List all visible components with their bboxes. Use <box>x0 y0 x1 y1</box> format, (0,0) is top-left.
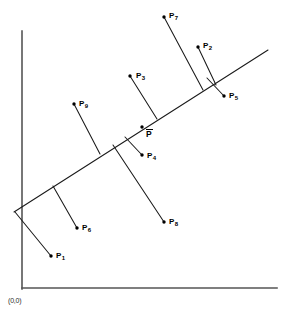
point-label-subscript: 2 <box>209 45 212 51</box>
point-label-subscript: 5 <box>235 95 238 101</box>
point-dot-p3 <box>128 74 131 77</box>
perpendicular-segment-p1 <box>15 212 51 256</box>
point-label-subscript: 7 <box>175 15 178 21</box>
point-label-subscript: 1 <box>62 255 65 261</box>
point-label-base: P <box>82 223 87 232</box>
point-label-base: P <box>169 11 174 20</box>
perpendicular-segment-p2 <box>198 47 216 85</box>
point-dot-p2 <box>196 45 199 48</box>
point-label-subscript: 6 <box>88 227 91 233</box>
point-label-p3: P3 <box>136 72 145 80</box>
point-label-p7: P7 <box>169 12 178 20</box>
point-dot-p6 <box>75 226 78 229</box>
point-label-subscript: 3 <box>142 75 145 81</box>
point-dot-p9 <box>72 102 75 105</box>
point-dot-mean <box>140 125 143 128</box>
point-label-base: P <box>203 41 208 50</box>
point-label-mean: P <box>146 129 152 139</box>
point-label-subscript: 8 <box>175 221 178 227</box>
point-label-base: P <box>56 251 61 260</box>
regression-diagram: P1P2P3P4P5P6P7P8P9P (0,0) <box>0 0 285 319</box>
point-label-base: P <box>136 71 141 80</box>
point-dot-p8 <box>162 220 165 223</box>
perpendicular-segment-p3 <box>130 76 157 119</box>
diagram-canvas <box>0 0 285 319</box>
point-label-p6: P6 <box>82 224 91 232</box>
point-label-p4: P4 <box>147 152 156 160</box>
point-dot-p5 <box>222 94 225 97</box>
point-label-subscript: 4 <box>153 155 156 161</box>
point-label-p2: P2 <box>203 42 212 50</box>
origin-label: (0,0) <box>8 297 21 304</box>
perpendicular-segment-p4 <box>125 137 142 155</box>
point-dot-p4 <box>140 153 143 156</box>
point-dot-p1 <box>49 254 52 257</box>
point-label-base: P <box>147 151 152 160</box>
perpendicular-segments-group <box>15 17 224 256</box>
point-label-p8: P8 <box>169 218 178 226</box>
perpendicular-segment-p8 <box>113 145 164 222</box>
point-label-p1: P1 <box>56 252 65 260</box>
perpendicular-segment-p6 <box>53 186 77 228</box>
point-label-base: P <box>229 91 234 100</box>
point-dots-group <box>49 15 225 257</box>
point-label-p5: P5 <box>229 92 238 100</box>
point-label-p9: P9 <box>79 100 88 108</box>
point-label-base: P <box>79 99 84 108</box>
point-label-base: P <box>169 217 174 226</box>
point-label-subscript: 9 <box>85 103 88 109</box>
perpendicular-segment-p7 <box>164 17 203 90</box>
mean-overbar-wrapper: P <box>146 129 152 139</box>
perpendicular-segment-p9 <box>74 104 100 154</box>
point-dot-p7 <box>162 15 165 18</box>
